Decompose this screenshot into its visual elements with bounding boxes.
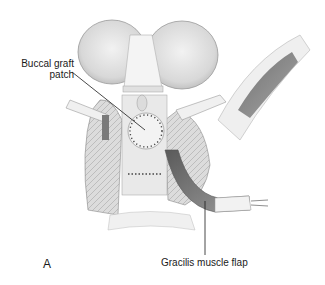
surgical-illustration: Buccal graft patch Gracilis muscle flap …: [0, 0, 325, 285]
buccal-graft-patch: [128, 113, 164, 149]
thigh-incision: [218, 35, 310, 140]
gracilis-muscle-label: Gracilis muscle flap: [161, 257, 248, 268]
buccal-graft-label: Buccal graft patch: [18, 58, 74, 80]
buccal-label-line2: patch: [18, 69, 74, 80]
anatomy-drawing: [0, 0, 325, 285]
panel-letter: A: [43, 257, 51, 271]
left-tissue-wall: [66, 100, 122, 215]
buccal-label-line1: Buccal graft: [18, 58, 74, 69]
